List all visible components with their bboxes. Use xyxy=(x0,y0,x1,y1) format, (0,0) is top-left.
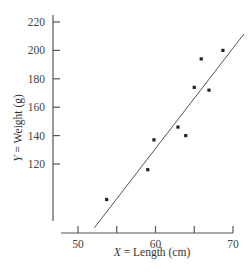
y-tick-label: 140 xyxy=(28,130,46,142)
y-tick-label: 180 xyxy=(28,73,46,85)
data-points xyxy=(105,49,224,201)
y-axis-label-text: = Weight (g) xyxy=(12,94,25,155)
data-point xyxy=(200,57,203,60)
y-tick-label: 200 xyxy=(28,44,46,56)
x-tick-label: 50 xyxy=(72,238,84,250)
x-axis-label: X = Length (cm) xyxy=(113,246,191,259)
data-point xyxy=(207,89,210,92)
y-axis-label: Y = Weight (g) xyxy=(12,94,25,162)
data-point xyxy=(193,86,196,89)
data-point xyxy=(146,168,149,171)
y-tick-label: 220 xyxy=(28,16,46,28)
regression-line xyxy=(94,34,244,228)
regression-line-path xyxy=(94,34,244,228)
y-tick-label: 120 xyxy=(28,158,46,170)
data-point xyxy=(184,134,187,137)
data-point xyxy=(221,49,224,52)
x-axis-label-text: = Length (cm) xyxy=(121,246,191,259)
scatter-chart: 120140160180200220 506070 Y = Weight (g)… xyxy=(0,0,250,273)
data-point xyxy=(176,125,179,128)
data-point xyxy=(105,198,108,201)
y-axis: 120140160180200220 xyxy=(28,15,60,221)
x-tick-label: 70 xyxy=(227,238,239,250)
data-point xyxy=(152,138,155,141)
y-tick-label: 160 xyxy=(28,101,46,113)
